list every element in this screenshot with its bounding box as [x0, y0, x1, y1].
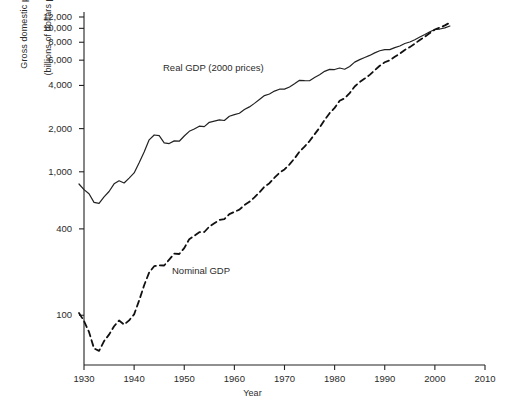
- x-tick-label: 2000: [415, 373, 455, 384]
- x-tick-label: 1930: [64, 373, 104, 384]
- y-tick-label: 12,000: [12, 11, 72, 22]
- y-tick-label: 4,000: [12, 79, 72, 90]
- series-line-real-gdp: [79, 26, 450, 203]
- x-tick-label: 1990: [365, 373, 405, 384]
- y-tick-label: 100: [12, 309, 72, 320]
- x-tick-label: 1940: [114, 373, 154, 384]
- gdp-log-chart: Gross domestic product (billions of doll…: [0, 0, 505, 406]
- y-tick-label: 6,000: [12, 54, 72, 65]
- x-tick-label: 1970: [265, 373, 305, 384]
- x-tick-label: 1980: [315, 373, 355, 384]
- x-tick-label: 2010: [465, 373, 505, 384]
- x-tick-label: 1950: [164, 373, 204, 384]
- series-line-nominal-gdp: [79, 23, 450, 351]
- y-tick-label: 400: [12, 223, 72, 234]
- series-label-real-gdp: Real GDP (2000 prices): [163, 62, 264, 73]
- y-tick-label: 8,000: [12, 36, 72, 47]
- y-tick-label: 1,000: [12, 166, 72, 177]
- plot-area: [0, 0, 505, 406]
- series-label-nominal-gdp: Nominal GDP: [172, 265, 230, 276]
- y-tick-label: 10,000: [12, 22, 72, 33]
- x-tick-label: 1960: [214, 373, 254, 384]
- y-tick-label: 2,000: [12, 123, 72, 134]
